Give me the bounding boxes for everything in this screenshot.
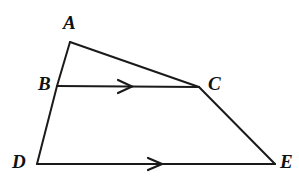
vertex-label-e: E bbox=[280, 152, 293, 171]
segment-AB-line bbox=[57, 42, 70, 86]
vertex-label-c: C bbox=[208, 74, 221, 93]
segment-AC-line bbox=[70, 42, 199, 87]
vertex-label-a: A bbox=[63, 13, 76, 32]
geometry-figure: A B C D E bbox=[0, 0, 299, 187]
segment-BD-line bbox=[37, 86, 57, 164]
segment-CE-line bbox=[199, 87, 275, 164]
vertex-label-b: B bbox=[38, 74, 51, 93]
vertex-label-d: D bbox=[12, 152, 26, 171]
segment-BC-line bbox=[57, 86, 199, 87]
